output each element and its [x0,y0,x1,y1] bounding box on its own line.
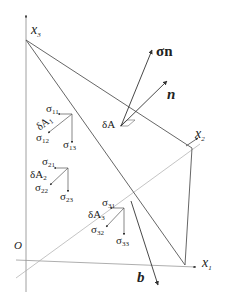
sigma-n-vector [121,50,152,126]
x1-axis [16,260,196,267]
x2-label: x2 [194,126,205,143]
n-label: n [167,86,175,102]
sigma-12-label: σ12 [36,131,49,145]
face-3-stress-glyph [106,208,124,235]
x1-label: x1 [201,255,212,272]
sigma-21-label: σ21 [42,155,55,169]
stress-tetrahedron-diagram: x3 x2 x1 O σn n b δA σ11 δA1 σ12 σ13 σ21… [0,0,228,298]
face-2-stress-glyph [50,168,68,192]
delta-a2-label: δA2 [30,168,47,182]
sigma-22-label: σ22 [35,181,48,195]
sigma-11-label: σ11 [46,102,59,116]
tetrahedron-edges [26,40,192,265]
normal-n-vector [121,81,167,126]
x3-label: x3 [30,22,41,39]
sigma-13-label: σ13 [63,138,76,152]
sigma-23-label: σ23 [60,190,73,204]
origin-label: O [14,239,22,251]
body-force-b-vector [131,201,158,285]
delta-a3-label: δA3 [88,208,105,222]
surface-element-label: δA [102,118,115,130]
sigma-n-label: σn [156,43,173,59]
sigma-32-label: σ32 [91,223,104,237]
sigma-31-label: σ31 [102,196,115,210]
b-label: b [137,269,145,285]
sigma-33-label: σ33 [116,234,129,248]
